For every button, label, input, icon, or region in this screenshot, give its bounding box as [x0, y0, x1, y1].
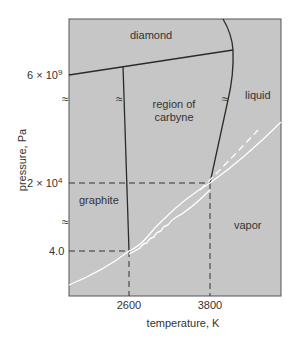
region-diamond: diamond: [130, 29, 172, 41]
break-left-lower: ≈: [62, 215, 69, 229]
region-carbyne-line1: region of: [153, 98, 197, 110]
ytick-6e9: 6 × 109: [27, 68, 63, 81]
break-liquid-line: ≈: [222, 92, 229, 106]
region-vapor: vapor: [234, 219, 262, 231]
y-axis-title: pressure, Pa: [16, 128, 28, 191]
phase-diagram: ≈ ≈ ≈ ≈ diamond region of carbyne liquid…: [0, 0, 295, 339]
region-carbyne-line2: carbyne: [154, 111, 193, 123]
region-graphite: graphite: [79, 194, 119, 206]
xtick-2600: 2600: [117, 299, 141, 311]
region-liquid: liquid: [245, 89, 271, 101]
x-axis-title: temperature, K: [147, 317, 220, 329]
plot-area: [69, 19, 281, 296]
break-graphite-line: ≈: [116, 92, 123, 106]
ytick-2e4: 2 × 104: [27, 176, 63, 189]
break-left-upper: ≈: [62, 92, 69, 106]
xtick-3800: 3800: [198, 299, 222, 311]
ytick-4: 4.0: [49, 245, 64, 257]
